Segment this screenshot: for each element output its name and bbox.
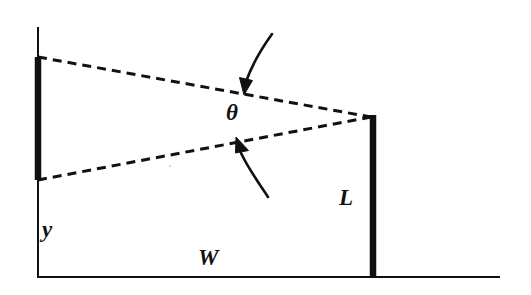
label-height-y: y [42, 218, 52, 241]
label-length-L: L [339, 186, 353, 209]
label-width-W: W [198, 246, 218, 269]
arrow-lower-shaft [241, 153, 268, 197]
arrow-upper-head [240, 78, 253, 96]
label-theta: θ [226, 101, 238, 124]
diagram-svg [0, 0, 531, 295]
arrow-upper-shaft [246, 34, 272, 82]
figure-canvas: θ L y W [0, 0, 531, 295]
indicator-arrow-upper [240, 34, 273, 95]
dashed-ray-lower [38, 117, 371, 180]
dashed-ray-upper [38, 57, 371, 117]
scan-speck [169, 165, 171, 167]
indicator-arrow-lower [236, 137, 269, 197]
